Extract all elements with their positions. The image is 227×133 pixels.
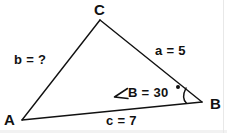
side-label-b: b = ? [14,53,46,66]
right-edge-line [223,0,224,133]
angle-arc-at-b [184,88,187,103]
degree-symbol-icon [176,85,180,89]
angle-symbol-icon [115,89,129,99]
vertex-label-a: A [4,112,15,127]
vertex-label-c: C [94,2,105,17]
triangle-geometry-figure: C A B b = ? a = 5 c = 7 B = 30 [0,0,227,133]
side-label-a: a = 5 [155,44,186,57]
bottom-edge-tint [0,130,227,133]
angle-measure-label: B = 30 [128,86,168,99]
side-b-line [22,20,100,120]
vertex-label-b: B [210,96,221,111]
side-label-c: c = 7 [106,114,137,127]
